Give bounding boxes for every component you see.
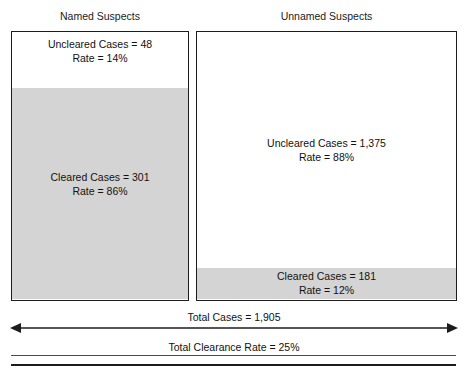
total-clearance-rate-label: Total Clearance Rate = 25%	[11, 341, 457, 353]
unnamed-cleared-count: Cleared Cases = 181	[277, 270, 376, 284]
named-cleared-count: Cleared Cases = 301	[51, 171, 150, 185]
unnamed-uncleared-rate: Rate = 88%	[267, 151, 386, 165]
segment-named-cleared: Cleared Cases = 301 Rate = 86%	[12, 88, 188, 299]
named-uncleared-rate: Rate = 14%	[48, 52, 152, 66]
unnamed-uncleared-count: Uncleared Cases = 1,375	[267, 137, 386, 151]
unnamed-cleared-rate: Rate = 12%	[277, 284, 376, 298]
total-cases-span-arrow-icon	[8, 320, 460, 336]
panel-named-suspects: Uncleared Cases = 48 Rate = 14% Cleared …	[11, 31, 189, 301]
column-heading-unnamed-suspects: Unnamed Suspects	[196, 10, 457, 22]
named-cleared-rate: Rate = 86%	[51, 185, 150, 199]
segment-unnamed-uncleared-text: Uncleared Cases = 1,375 Rate = 88%	[267, 137, 386, 164]
segment-named-uncleared: Uncleared Cases = 48 Rate = 14%	[12, 32, 188, 88]
segment-named-cleared-text: Cleared Cases = 301 Rate = 86%	[51, 171, 150, 198]
divider-thin	[11, 355, 456, 356]
divider-thick	[11, 364, 456, 366]
column-heading-named-suspects: Named Suspects	[11, 10, 189, 22]
segment-named-uncleared-text: Uncleared Cases = 48 Rate = 14%	[48, 38, 152, 65]
named-uncleared-count: Uncleared Cases = 48	[48, 38, 152, 52]
clearance-rate-diagram: Named Suspects Unnamed Suspects Uncleare…	[0, 0, 467, 375]
segment-unnamed-cleared-text: Cleared Cases = 181 Rate = 12%	[277, 270, 376, 297]
panel-unnamed-suspects: Uncleared Cases = 1,375 Rate = 88% Clear…	[196, 31, 457, 301]
segment-unnamed-cleared: Cleared Cases = 181 Rate = 12%	[197, 268, 456, 299]
segment-unnamed-uncleared: Uncleared Cases = 1,375 Rate = 88%	[197, 32, 456, 268]
